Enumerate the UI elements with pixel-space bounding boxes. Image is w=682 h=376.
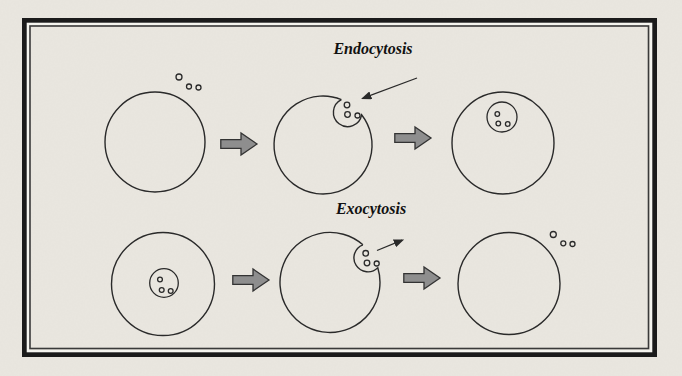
endocytosis-label: Endocytosis	[333, 41, 412, 57]
page: Endocytosis Exocytosis	[0, 0, 682, 376]
exocytosis-label: Exocytosis	[336, 201, 406, 217]
